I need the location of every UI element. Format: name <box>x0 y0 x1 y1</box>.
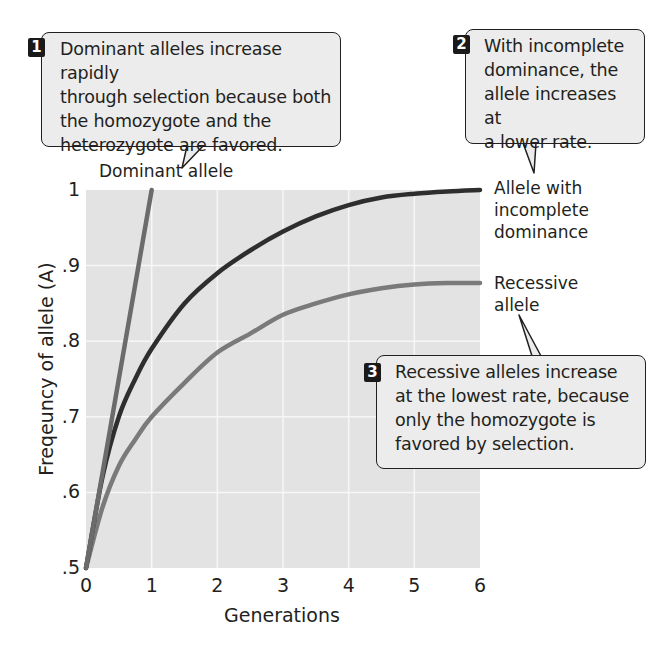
callout-2: With incomplete dominance, the allele in… <box>465 29 645 144</box>
series-label-recessive: Recessive allele <box>494 272 578 316</box>
y-tick-label: 1 <box>68 178 80 200</box>
y-tick-label: .9 <box>62 254 80 276</box>
y-tick-label: .7 <box>62 405 80 427</box>
x-tick-label: 2 <box>211 574 223 596</box>
series-label-incomplete: Allele with incomplete dominance <box>494 177 589 243</box>
y-tick-label: .6 <box>62 480 80 502</box>
y-axis-label: Freqeuncy of allele (A) <box>35 249 57 489</box>
y-tick-label: .5 <box>62 556 80 578</box>
x-tick-label: 6 <box>474 574 486 596</box>
chart: .5.6.7.8.91 0123456 Generations Freqeunc… <box>0 0 664 645</box>
callout-1-number-badge: 1 <box>28 38 45 57</box>
x-tick-label: 0 <box>80 574 92 596</box>
y-tick-label: .8 <box>62 329 80 351</box>
x-tick-label: 1 <box>146 574 158 596</box>
callout-2-number-badge: 2 <box>453 35 470 54</box>
callout-1: Dominant alleles increase rapidly throug… <box>41 32 341 147</box>
series-label-dominant: Dominant allele <box>99 160 233 182</box>
callout-3-number-badge: 3 <box>364 363 381 382</box>
x-axis-label: Generations <box>224 604 340 626</box>
x-tick-label: 5 <box>408 574 420 596</box>
x-tick-label: 3 <box>277 574 289 596</box>
x-tick-label: 4 <box>343 574 355 596</box>
callout-3: Recessive alleles increase at the lowest… <box>376 355 646 469</box>
